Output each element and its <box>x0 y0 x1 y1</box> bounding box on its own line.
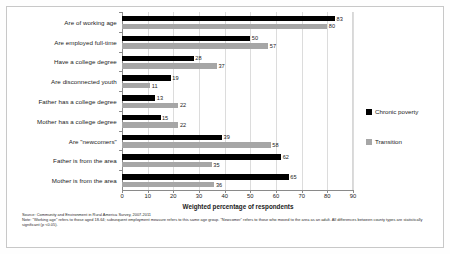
x-tick-label: 10 <box>144 193 150 199</box>
x-axis-line <box>122 190 354 191</box>
x-tick-label: 0 <box>120 193 123 199</box>
category-label: Are disconnected youth <box>51 78 121 85</box>
bar-value-label: 13 <box>155 95 163 101</box>
category-label: Have a college degree <box>54 58 121 65</box>
bar-transition: 22 <box>122 122 178 127</box>
category-tick <box>119 71 122 72</box>
x-tick-label: 70 <box>298 193 304 199</box>
bar-transition: 11 <box>122 83 150 88</box>
bar-value-label: 57 <box>268 43 276 49</box>
category-tick <box>119 52 122 53</box>
bar-value-label: 39 <box>222 134 230 140</box>
bar-chronic-poverty: 83 <box>122 16 335 21</box>
bar-group: Are "newcomers"3958 <box>122 131 353 151</box>
bar-value-label: 15 <box>161 115 169 121</box>
bar-value-label: 28 <box>194 55 202 61</box>
bar-group: Mother is from the area6536 <box>122 170 353 190</box>
legend-swatch-icon <box>366 139 372 145</box>
bar-transition: 37 <box>122 63 217 68</box>
bar-transition: 22 <box>122 103 178 108</box>
category-tick <box>119 131 122 132</box>
bar-value-label: 83 <box>335 16 343 22</box>
bar-value-label: 36 <box>214 182 222 188</box>
bar-transition: 36 <box>122 182 214 187</box>
x-tick-label: 20 <box>170 193 176 199</box>
x-tick-label: 80 <box>324 193 330 199</box>
bar-group: Are disconnected youth1911 <box>122 71 353 91</box>
footnotes: Source: Community and Environment in Rur… <box>22 212 430 228</box>
category-tick <box>119 170 122 171</box>
category-tick <box>119 111 122 112</box>
bar-value-label: 35 <box>212 162 220 168</box>
bar-chronic-poverty: 19 <box>122 75 171 80</box>
legend-label: Transition <box>375 138 402 145</box>
category-tick <box>119 91 122 92</box>
x-axis-label: Weighted percentage of respondents <box>122 203 354 210</box>
category-label: Are employed full-time <box>54 38 121 45</box>
x-tick-label: 30 <box>196 193 202 199</box>
bar-chronic-poverty: 50 <box>122 36 250 41</box>
bar-group: Father is from the area6235 <box>122 150 353 170</box>
x-tick-label: 50 <box>247 193 253 199</box>
bar-chronic-poverty: 15 <box>122 115 161 120</box>
bar-transition: 35 <box>122 162 212 167</box>
category-label: Father is from the area <box>53 157 121 164</box>
bar-value-label: 19 <box>171 75 179 81</box>
bar-transition: 58 <box>122 142 271 147</box>
bar-transition: 80 <box>122 24 327 29</box>
category-label: Father has a college degree <box>38 97 120 104</box>
category-label: Mother is from the area <box>52 177 121 184</box>
bar-group: Are employed full-time5057 <box>122 32 353 52</box>
bar-value-label: 58 <box>271 142 279 148</box>
category-tick <box>119 150 122 151</box>
category-label: Mother has a college degree <box>37 117 121 124</box>
legend-swatch-icon <box>366 109 372 115</box>
category-tick <box>119 32 122 33</box>
bar-value-label: 37 <box>217 63 225 69</box>
gridline <box>353 12 354 190</box>
methodology-note: Note: "Working age" refers to those aged… <box>22 217 430 227</box>
bar-value-label: 65 <box>289 174 297 180</box>
bar-transition: 57 <box>122 43 268 48</box>
x-tick-label: 90 <box>350 193 356 199</box>
plot-wrapper: Are of working age8380Are employed full-… <box>0 0 438 242</box>
category-label: Are of working age <box>64 18 121 25</box>
category-tick <box>119 12 122 13</box>
bar-value-label: 11 <box>150 83 157 89</box>
category-label: Are "newcomers" <box>69 137 121 144</box>
bar-value-label: 80 <box>327 23 335 29</box>
bar-chronic-poverty: 62 <box>122 154 281 159</box>
bar-group: Mother has a college degree1522 <box>122 111 353 131</box>
x-tick-label: 40 <box>221 193 227 199</box>
bar-value-label: 62 <box>281 154 289 160</box>
bar-group: Have a college degree2837 <box>122 52 353 72</box>
bar-value-label: 22 <box>178 122 186 128</box>
legend-item[interactable]: Transition <box>366 138 402 145</box>
chart-figure: Are of working age8380Are employed full-… <box>0 0 450 254</box>
legend-item[interactable]: Chronic poverty <box>366 108 418 115</box>
bar-chronic-poverty: 65 <box>122 174 289 179</box>
bar-chronic-poverty: 28 <box>122 56 194 61</box>
bar-value-label: 50 <box>250 35 258 41</box>
bar-group: Are of working age8380 <box>122 12 353 32</box>
bar-group: Father has a college degree1322 <box>122 91 353 111</box>
chart-legend: Chronic povertyTransition <box>366 12 428 190</box>
legend-label: Chronic poverty <box>375 108 418 115</box>
x-tick-label: 60 <box>273 193 279 199</box>
bar-chronic-poverty: 13 <box>122 95 155 100</box>
bar-value-label: 22 <box>178 102 186 108</box>
bar-chronic-poverty: 39 <box>122 135 222 140</box>
